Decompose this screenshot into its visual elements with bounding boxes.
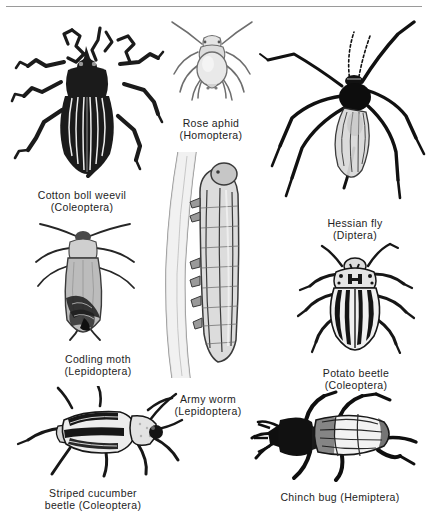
figure-potato-beetle [294, 240, 418, 354]
figure-codling-moth [24, 222, 152, 342]
figure-chinch-bug [250, 390, 428, 482]
label-army-worm-name: Army worm [180, 393, 236, 405]
caption-cotton-boll-weevil: Cotton boll weevil (Coleoptera) [2, 176, 162, 226]
figure-army-worm [152, 150, 262, 380]
label-cotton-boll-weevil-name: Cotton boll weevil [38, 189, 127, 201]
insect-plate: Cotton boll weevil (Coleoptera) [0, 0, 428, 512]
label-cotton-boll-weevil-order: (Coleoptera) [2, 201, 162, 214]
caption-striped-cucumber-beetle: Striped cucumber beetle (Coleoptera) [8, 474, 178, 512]
label-hessian-fly-name: Hessian fly [327, 217, 382, 229]
label-codling-moth-name: Codling moth [65, 353, 131, 365]
label-striped-cucumber-beetle-name: Striped cucumber [49, 487, 137, 499]
label-chinch-bug-name: Chinch bug (Hemiptera) [280, 491, 399, 503]
label-rose-aphid-name: Rose aphid [183, 117, 240, 129]
caption-codling-moth: Codling moth (Lepidoptera) [34, 340, 162, 390]
figure-hessian-fly [258, 20, 428, 202]
caption-rose-aphid: Rose aphid (Homoptera) [150, 104, 272, 154]
figure-rose-aphid [158, 14, 266, 104]
label-potato-beetle-name: Potato beetle [323, 367, 389, 379]
caption-chinch-bug: Chinch bug (Hemiptera) [252, 478, 428, 503]
label-striped-cucumber-beetle-order: beetle (Coleoptera) [8, 499, 178, 512]
figure-cotton-boll-weevil [6, 18, 166, 180]
figure-striped-cucumber-beetle [14, 386, 184, 478]
top-rule [6, 6, 422, 7]
label-rose-aphid-order: (Homoptera) [150, 129, 272, 142]
label-codling-moth-order: (Lepidoptera) [34, 365, 162, 378]
